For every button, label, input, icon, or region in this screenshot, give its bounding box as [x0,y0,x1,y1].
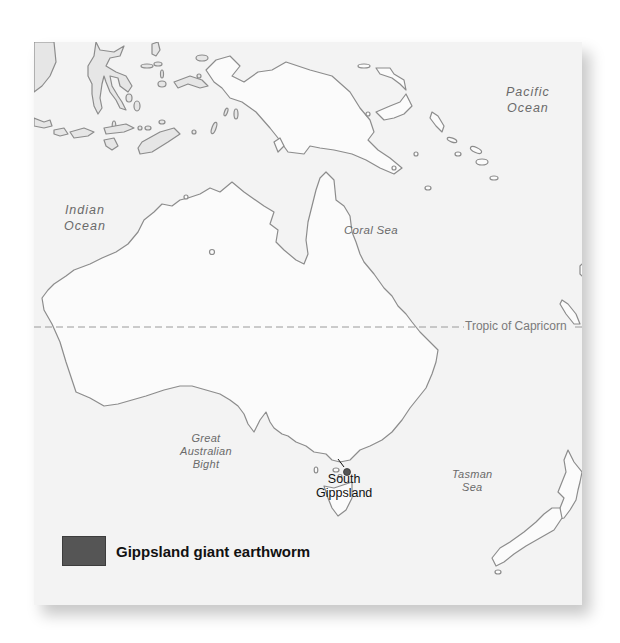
new-britain-outline [376,94,412,120]
island [145,126,151,130]
borneo-outline [34,42,56,92]
island [159,120,165,124]
new-ireland-outline [376,68,406,90]
nz-south-island-outline [492,508,562,566]
island [358,64,370,68]
island [192,130,196,134]
island [210,122,218,135]
island [490,176,498,180]
legend-label: Gippsland giant earthworm [116,543,310,560]
island [197,74,201,78]
label-tropic-of-capricorn: Tropic of Capricorn [464,319,568,333]
island [447,136,458,143]
island [138,126,142,130]
island [234,109,238,119]
label-coral-sea: Coral Sea [344,224,398,237]
island [134,101,140,111]
island [495,570,501,574]
island [158,81,166,87]
island [154,62,162,66]
timor-outline [138,128,180,154]
label-south-gippsland: SouthGippsland [316,472,372,500]
island [126,94,132,102]
sumba-outline [104,138,118,150]
island [455,152,461,156]
island [414,152,418,156]
legend-swatch [62,536,106,566]
island [425,186,431,190]
sulawesi-outline [88,42,132,114]
island [476,159,488,165]
vanuatu-outline [580,262,582,278]
sumbawa-outline [34,118,52,128]
island [366,112,370,116]
label-indian-ocean: IndianOcean [64,202,106,234]
island-outline [104,124,134,134]
seram-outline [174,76,208,88]
island [470,145,483,155]
island-outline [54,128,68,136]
solomon-island-outline [430,112,444,132]
island [184,195,188,199]
map-panel: PacificOcean IndianOcean Coral Sea Great… [34,42,582,605]
label-great-australian-bight: GreatAustralianBight [180,432,232,471]
island [161,70,164,78]
label-pacific-ocean: PacificOcean [506,84,550,116]
island [196,55,208,61]
flores-outline [70,128,94,138]
halmahera-outline [152,42,160,56]
indonesia-islands [34,42,238,154]
legend: Gippsland giant earthworm [62,536,310,566]
label-tasman-sea: TasmanSea [452,468,493,494]
island [392,166,396,170]
island [141,64,153,68]
main-landmasses [42,56,582,574]
island [210,250,215,255]
island [223,108,229,117]
